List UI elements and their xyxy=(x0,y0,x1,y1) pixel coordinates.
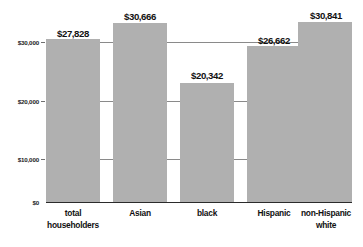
y-tick-mark-20000 xyxy=(41,101,45,102)
value-label-total-householders: $27,828 xyxy=(37,28,109,39)
x-axis-baseline xyxy=(46,202,352,203)
y-tick-label-20000: $20,000 xyxy=(18,97,39,104)
y-tick-label-0: $0 xyxy=(32,198,39,205)
category-label-black: black xyxy=(170,208,244,220)
category-line-1: Asian xyxy=(103,208,177,220)
y-axis: $30,000 $20,000 $10,000 $0 xyxy=(0,18,46,202)
bar-non-hispanic-white[interactable] xyxy=(298,22,352,202)
y-tick-mark-30000 xyxy=(41,42,45,43)
bar-total-householders[interactable] xyxy=(46,39,100,201)
y-tick-label-30000: $30,000 xyxy=(18,39,39,46)
bar-black[interactable] xyxy=(180,83,234,202)
value-label-asian: $30,666 xyxy=(104,11,176,22)
y-tick-label-10000: $10,000 xyxy=(18,156,39,163)
bar-hispanic[interactable] xyxy=(247,46,301,201)
value-label-hispanic: $26,662 xyxy=(238,35,310,46)
category-label-total-householders: total householders xyxy=(36,208,110,231)
category-line-1: black xyxy=(170,208,244,220)
category-line-1: total xyxy=(36,208,110,220)
value-label-black: $20,342 xyxy=(171,70,243,81)
category-label-non-hispanic-white: non-Hispanic white xyxy=(289,208,363,231)
category-line-2: householders xyxy=(36,220,110,232)
value-label-non-hispanic-white: $30,841 xyxy=(290,10,362,21)
bar-asian[interactable] xyxy=(113,23,167,202)
y-tick-mark-10000 xyxy=(41,159,45,160)
category-line-1: non-Hispanic xyxy=(289,208,363,220)
category-line-2: white xyxy=(289,220,363,232)
bar-chart: $30,000 $20,000 $10,000 $0 $27,828 $30,6… xyxy=(0,0,363,247)
cropped-header-strip xyxy=(0,0,363,7)
category-label-asian: Asian xyxy=(103,208,177,220)
